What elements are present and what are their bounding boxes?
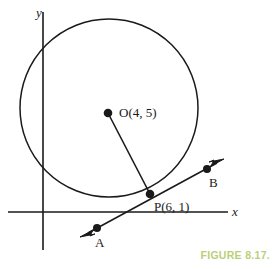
geometry-diagram bbox=[0, 0, 278, 269]
arrowhead-b-icon bbox=[209, 159, 224, 166]
point-marker-o bbox=[104, 109, 113, 118]
y-axis-label: y bbox=[36, 6, 42, 19]
figure-caption: FIGURE 8.17. bbox=[200, 249, 270, 261]
point-a-label: A bbox=[95, 236, 104, 249]
point-marker-p bbox=[146, 190, 155, 199]
x-axis-label: x bbox=[232, 205, 238, 218]
tangent-line-ab bbox=[88, 163, 217, 233]
figure-container: y x O(4, 5) P(6, 1) A B FIGURE 8.17. bbox=[0, 0, 278, 269]
circle-shape bbox=[20, 19, 198, 197]
point-b-label: B bbox=[209, 176, 218, 189]
center-point-label: O(4, 5) bbox=[119, 106, 157, 119]
point-marker-a bbox=[93, 224, 101, 232]
radius-segment-op bbox=[108, 113, 150, 194]
tangent-point-label: P(6, 1) bbox=[154, 200, 189, 213]
point-marker-b bbox=[203, 165, 211, 173]
arrowhead-a-icon bbox=[80, 230, 95, 237]
